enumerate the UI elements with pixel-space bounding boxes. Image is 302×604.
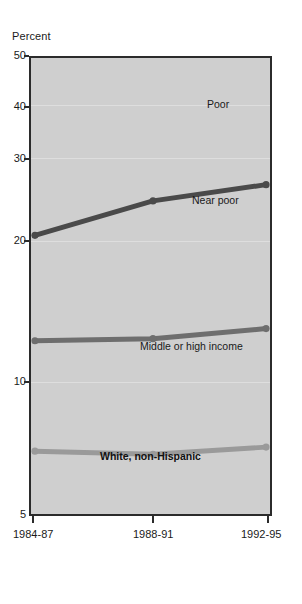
x-tick-label-1: 1988-91	[133, 528, 173, 540]
series-label-middle-or-high-income: Middle or high income	[140, 340, 243, 352]
y-tick-label-50: 50	[2, 50, 26, 61]
x-tick-mark-0	[32, 514, 34, 523]
data-point	[31, 337, 38, 344]
y-tick-label-30: 30	[2, 153, 26, 164]
plot-area: White, non-Hispanic	[29, 56, 272, 516]
y-tick-label-20: 20	[2, 235, 26, 246]
x-tick-label-0: 1984-87	[13, 528, 53, 540]
data-point	[263, 181, 270, 188]
y-axis-ticks: 50 40 30 20 10 5	[0, 0, 26, 604]
series-lines	[31, 58, 270, 514]
x-tick-mark-1	[152, 514, 154, 523]
x-tick-label-2: 1992-95	[241, 528, 281, 540]
group-annotation: White, non-Hispanic	[31, 450, 270, 462]
y-tick-label-10: 10	[2, 376, 26, 387]
series-label-poor: Poor	[207, 98, 229, 110]
data-point	[149, 197, 156, 204]
series-label-near-poor: Near poor	[192, 194, 239, 206]
chart-figure: Percent 50 40 30 20 10 5	[0, 0, 302, 604]
data-point	[263, 325, 270, 332]
y-tick-label-5: 5	[2, 509, 26, 520]
data-point	[31, 232, 38, 239]
y-tick-label-40: 40	[2, 101, 26, 112]
series-line-poor	[31, 181, 269, 239]
x-tick-mark-2	[267, 514, 269, 523]
